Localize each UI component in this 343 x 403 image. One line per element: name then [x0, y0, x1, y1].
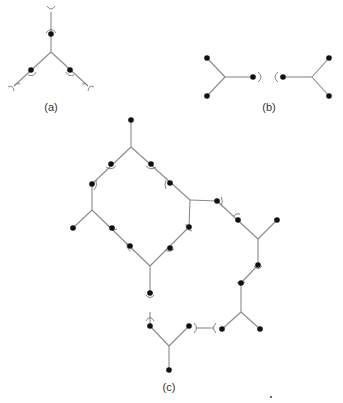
node [28, 67, 34, 73]
edge [92, 210, 150, 266]
node [127, 243, 133, 249]
edge [312, 77, 329, 96]
cap-cup [214, 323, 217, 333]
node [167, 180, 173, 186]
node [326, 93, 332, 99]
cap-fork [47, 6, 55, 9]
node [109, 225, 115, 231]
cap-fork [88, 86, 94, 91]
edge [190, 200, 217, 201]
panel-label-c: (c) [163, 381, 176, 393]
node [108, 161, 114, 167]
panel-c: (c) [70, 117, 280, 393]
cap-fork [8, 86, 14, 91]
node [257, 326, 263, 332]
edge [189, 200, 190, 227]
panel-label-a: (a) [44, 101, 57, 113]
panel-a: (a) [8, 6, 94, 113]
edge [222, 312, 241, 329]
node [186, 323, 192, 329]
node [280, 74, 286, 80]
diagram-canvas: (a) (b) [0, 0, 343, 403]
edge [241, 312, 260, 329]
edge [150, 326, 169, 346]
speck-mark [270, 396, 272, 398]
cap-cup [275, 72, 278, 82]
node [235, 217, 241, 223]
node [214, 198, 220, 204]
cap-cup [165, 180, 166, 189]
edge [312, 58, 329, 77]
node [166, 367, 172, 373]
node [67, 67, 73, 73]
node [204, 93, 210, 99]
node [89, 181, 95, 187]
panel-label-b: (b) [262, 101, 275, 113]
cap-cup [258, 72, 261, 82]
node [219, 326, 225, 332]
node [147, 323, 153, 329]
node [255, 262, 261, 268]
cap-cup [221, 197, 223, 206]
node [250, 74, 256, 80]
node [326, 55, 332, 61]
node [147, 290, 153, 296]
edge [207, 77, 225, 96]
node [128, 117, 134, 123]
cap-cup [194, 323, 197, 333]
node [167, 245, 173, 251]
node [186, 224, 192, 230]
node [204, 55, 210, 61]
edge [169, 326, 189, 346]
cap-cup [234, 214, 240, 216]
edge [131, 147, 190, 200]
panel-b: (b) [204, 55, 332, 113]
node [48, 31, 54, 37]
node [148, 161, 154, 167]
edge [258, 220, 277, 239]
node [70, 225, 76, 231]
edge [73, 210, 92, 228]
edge [207, 58, 225, 77]
node [238, 280, 244, 286]
node [274, 217, 280, 223]
